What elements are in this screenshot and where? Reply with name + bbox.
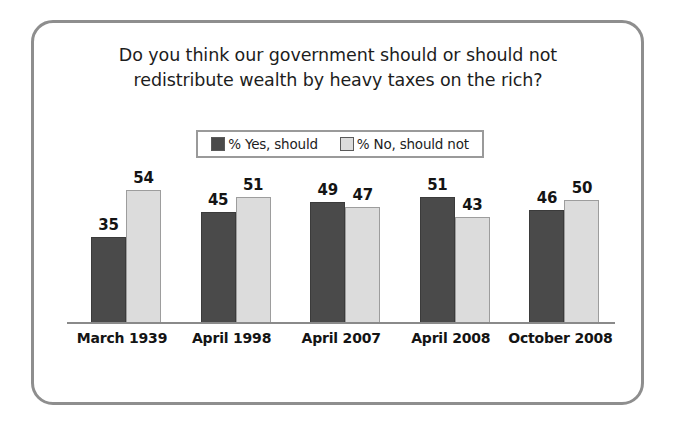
category-label: October 2008 [501, 330, 619, 346]
bar-no [236, 197, 271, 323]
category-label: April 2008 [392, 330, 510, 346]
bar-value-label: 47 [345, 186, 380, 204]
bar-group: 4650 [505, 175, 615, 323]
category-label: April 1998 [173, 330, 291, 346]
bar-value-label: 46 [529, 189, 564, 207]
dark-gray-swatch-icon [211, 137, 225, 151]
bar-group: 3554 [67, 175, 177, 323]
bar-yes [201, 212, 236, 323]
chart-legend: % Yes, should % No, should not [196, 130, 484, 158]
category-label: March 1939 [63, 330, 181, 346]
bar-no [455, 217, 490, 323]
bar-value-label: 51 [236, 176, 271, 194]
bar-value-label: 35 [91, 216, 126, 234]
bar-yes [91, 237, 126, 323]
bar-group: 4947 [286, 175, 396, 323]
bar-value-label: 43 [455, 196, 490, 214]
bar-value-label: 45 [201, 191, 236, 209]
chart-title-line-1: Do you think our government should or sh… [119, 45, 557, 65]
bar-value-label: 51 [420, 176, 455, 194]
category-label: April 2007 [282, 330, 400, 346]
bar-yes [420, 197, 455, 323]
legend-label-yes: % Yes, should [228, 136, 318, 152]
bar-value-label: 50 [564, 179, 599, 197]
bar-group: 5143 [396, 175, 506, 323]
legend-label-no: % No, should not [357, 136, 469, 152]
category-axis-labels: March 1939April 1998April 2007April 2008… [67, 330, 615, 354]
bar-value-label: 49 [310, 181, 345, 199]
light-gray-swatch-icon [340, 137, 354, 151]
bar-group: 4551 [177, 175, 287, 323]
x-axis-line [67, 322, 615, 324]
bar-yes [529, 210, 564, 323]
bar-no [564, 200, 599, 323]
bar-yes [310, 202, 345, 323]
legend-item-no: % No, should not [340, 136, 469, 152]
chart-title-line-2: redistribute wealth by heavy taxes on th… [46, 68, 630, 93]
chart-screenshot: Do you think our government should or sh… [0, 0, 676, 427]
legend-item-yes: % Yes, should [211, 136, 318, 152]
plot-area: 35544551494751434650 [67, 175, 615, 323]
chart-title: Do you think our government should or sh… [46, 43, 630, 93]
bar-no [126, 190, 161, 323]
bar-no [345, 207, 380, 323]
bar-value-label: 54 [126, 169, 161, 187]
